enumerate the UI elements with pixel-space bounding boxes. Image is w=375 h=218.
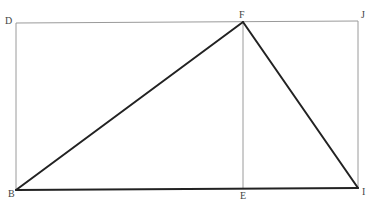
segment-FI xyxy=(243,22,358,188)
label-E: E xyxy=(240,190,246,201)
label-B: B xyxy=(8,188,15,199)
label-F: F xyxy=(239,9,245,20)
segment-DJ xyxy=(16,21,358,23)
label-I: I xyxy=(362,186,365,197)
segment-BF xyxy=(16,22,243,190)
label-J: J xyxy=(361,9,365,20)
label-D: D xyxy=(5,15,12,26)
geometry-diagram: D F J B E I xyxy=(0,0,375,218)
segment-BI xyxy=(16,188,358,190)
